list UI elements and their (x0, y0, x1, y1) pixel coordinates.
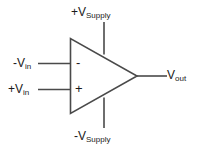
negative-supply-label: -VSupply (74, 130, 110, 142)
negative-supply-base: V (78, 129, 86, 143)
negative-supply-subscript: Supply (86, 135, 110, 144)
opamp-diagram: +VSupply -VSupply -Vin +Vin Vout - + (0, 0, 202, 151)
noninverting-input-subscript: in (23, 88, 29, 97)
output-subscript: out (175, 74, 186, 83)
positive-supply-sign: + (71, 5, 78, 19)
positive-supply-subscript: Supply (86, 11, 110, 20)
output-label: Vout (167, 69, 186, 81)
output-base: V (167, 68, 175, 82)
noninverting-input-sign: + (8, 82, 15, 96)
inverting-terminal-symbol: - (76, 56, 80, 69)
inverting-input-label: -Vin (13, 57, 31, 69)
noninverting-input-base: V (15, 82, 23, 96)
inverting-input-subscript: in (25, 62, 31, 71)
positive-supply-label: +VSupply (71, 6, 111, 18)
positive-supply-base: V (78, 5, 86, 19)
inverting-input-base: V (17, 56, 25, 70)
noninverting-terminal-symbol: + (75, 82, 83, 95)
noninverting-input-label: +Vin (8, 83, 29, 95)
